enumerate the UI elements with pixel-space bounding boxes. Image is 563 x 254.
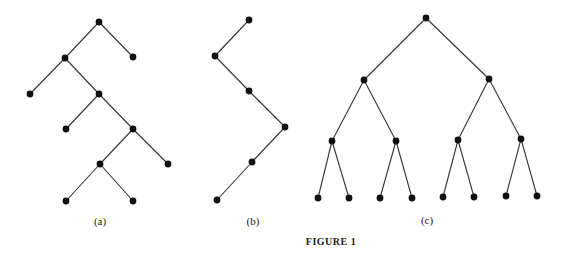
- tree-node: [97, 161, 104, 168]
- tree-edge: [249, 91, 285, 127]
- tree-node: [246, 88, 253, 95]
- tree-edge: [252, 127, 285, 162]
- tree-node: [393, 138, 400, 145]
- tree-edge: [99, 94, 133, 129]
- tree-edge: [458, 79, 489, 140]
- figure-canvas: (a) (b) (c) FIGURE 1: [0, 0, 563, 254]
- tree-node: [130, 54, 137, 61]
- tree-edge: [364, 80, 396, 141]
- tree-node: [455, 137, 462, 144]
- tree-node: [440, 194, 447, 201]
- tree-node: [165, 161, 172, 168]
- tree-node: [249, 159, 256, 166]
- tree-node: [96, 91, 103, 98]
- panel-label-a: (a): [94, 215, 107, 228]
- tree-edge: [30, 58, 65, 94]
- tree-edge: [65, 58, 99, 94]
- tree-node: [503, 193, 510, 200]
- tree-edge: [506, 139, 521, 196]
- tree-edge: [133, 129, 168, 164]
- tree-node: [518, 136, 525, 143]
- tree-node: [409, 195, 416, 202]
- tree-node: [212, 53, 219, 60]
- tree-node: [361, 77, 368, 84]
- tree-node: [130, 126, 137, 133]
- tree-node: [534, 193, 541, 200]
- tree-node: [63, 126, 70, 133]
- tree-node: [246, 17, 253, 24]
- tree-node: [282, 124, 289, 131]
- tree-edge: [458, 140, 474, 197]
- tree-node: [486, 76, 493, 83]
- tree-node: [27, 91, 34, 98]
- tree-node: [96, 19, 103, 26]
- tree-edge: [332, 141, 349, 198]
- tree-node: [377, 195, 384, 202]
- tree-edge: [215, 56, 249, 91]
- tree-edge: [426, 18, 489, 79]
- tree-edge: [521, 139, 537, 196]
- tree-edge: [396, 141, 412, 198]
- tree-edge: [332, 80, 364, 141]
- tree-panel-c: [315, 15, 541, 202]
- tree-edge: [100, 129, 133, 164]
- tree-edge: [66, 94, 99, 129]
- tree-edge: [66, 164, 100, 201]
- tree-edge: [318, 141, 332, 198]
- tree-edge: [364, 18, 426, 80]
- tree-node: [329, 138, 336, 145]
- panel-label-c: (c): [421, 214, 434, 227]
- tree-edge: [489, 79, 521, 139]
- tree-edge: [65, 22, 99, 58]
- tree-edge: [217, 162, 252, 200]
- tree-node: [471, 194, 478, 201]
- panel-label-b: (b): [247, 215, 260, 228]
- figure-caption: FIGURE 1: [306, 236, 356, 247]
- tree-node: [214, 197, 221, 204]
- tree-edge: [380, 141, 396, 198]
- tree-edge: [443, 140, 458, 197]
- tree-node: [63, 198, 70, 205]
- tree-node: [62, 55, 69, 62]
- tree-edge: [215, 20, 249, 56]
- tree-panel-b: [212, 17, 289, 204]
- tree-node: [423, 15, 430, 22]
- tree-node: [315, 195, 322, 202]
- tree-node: [346, 195, 353, 202]
- tree-edge: [99, 22, 133, 57]
- tree-edge: [100, 164, 133, 201]
- tree-panel-a: [27, 19, 172, 205]
- tree-node: [130, 198, 137, 205]
